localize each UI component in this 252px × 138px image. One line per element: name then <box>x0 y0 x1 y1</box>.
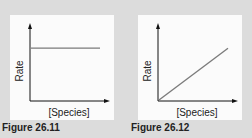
y-axis-arrow-icon <box>156 23 160 29</box>
y-axis-arrow-icon <box>28 23 32 29</box>
chart-svg-26-12: Rate [Species] <box>138 15 242 120</box>
x-axis-arrow-icon <box>232 99 238 103</box>
series-line-rate <box>159 48 228 100</box>
y-axis-label: Rate <box>14 60 25 82</box>
chart-panel-26-12: Rate [Species] <box>138 15 242 120</box>
y-axis-label: Rate <box>142 60 153 82</box>
x-axis-label: [Species] <box>48 107 89 118</box>
chart-panel-26-11: Rate [Species] <box>10 15 114 120</box>
x-axis-label: [Species] <box>176 107 217 118</box>
x-axis-arrow-icon <box>104 99 110 103</box>
figure-caption: Figure 26.12 <box>131 122 189 133</box>
chart-svg-26-11: Rate [Species] <box>10 15 114 120</box>
figure-caption: Figure 26.11 <box>2 122 60 133</box>
